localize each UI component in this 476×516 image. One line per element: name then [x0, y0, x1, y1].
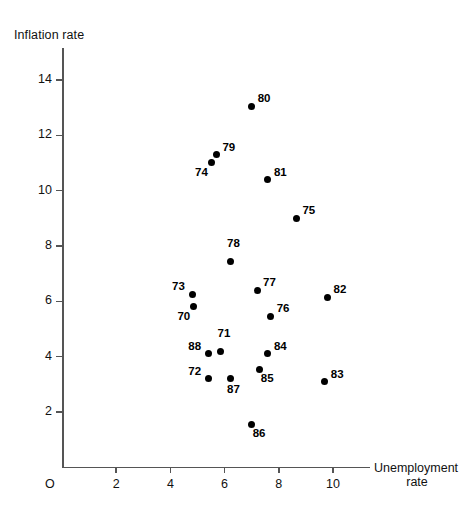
y-tick-mark [56, 79, 62, 81]
x-tick-label: 6 [212, 477, 238, 491]
data-point-label: 88 [188, 340, 201, 352]
scatter-plot: Inflation rate Unemployment rate O 24681… [0, 0, 476, 516]
y-tick-mark [56, 245, 62, 247]
data-point-label: 70 [177, 310, 190, 322]
data-point [248, 103, 255, 110]
y-tick-label: 6 [26, 293, 52, 307]
data-point-label: 75 [302, 204, 315, 216]
data-point [264, 350, 271, 357]
y-tick-label: 12 [26, 127, 52, 141]
data-point-label: 77 [263, 276, 276, 288]
data-point [190, 303, 197, 310]
x-tick-mark [170, 467, 172, 473]
origin-label: O [45, 477, 55, 491]
y-axis-line [62, 48, 64, 468]
data-point [254, 287, 261, 294]
data-point [217, 348, 224, 355]
data-point-label: 78 [227, 237, 240, 249]
data-point [293, 215, 300, 222]
data-point [267, 313, 274, 320]
y-tick-mark [56, 356, 62, 358]
y-tick-label: 4 [26, 349, 52, 363]
y-axis-title: Inflation rate [14, 28, 84, 42]
data-point-label: 76 [277, 302, 290, 314]
x-tick-label: 2 [103, 477, 129, 491]
x-axis-title-line-1: Unemployment [374, 461, 474, 475]
x-tick-mark [278, 467, 280, 473]
data-point-label: 81 [274, 166, 287, 178]
data-point [189, 291, 196, 298]
data-point-label: 86 [253, 427, 266, 439]
y-tick-mark [56, 411, 62, 413]
y-tick-label: 8 [26, 238, 52, 252]
x-tick-label: 8 [266, 477, 292, 491]
x-tick-label: 10 [320, 477, 346, 491]
x-tick-label: 4 [157, 477, 183, 491]
data-point [324, 294, 331, 301]
data-point [213, 151, 220, 158]
data-point-label: 80 [258, 92, 271, 104]
data-point-label: 87 [227, 383, 240, 395]
data-point-label: 71 [218, 327, 231, 339]
y-tick-label: 10 [26, 183, 52, 197]
y-tick-label: 2 [26, 404, 52, 418]
data-point [205, 375, 212, 382]
x-tick-mark [115, 467, 117, 473]
data-point [227, 258, 234, 265]
data-point [264, 176, 271, 183]
data-point [227, 375, 234, 382]
data-point-label: 73 [172, 280, 185, 292]
data-point-label: 74 [195, 166, 208, 178]
y-tick-mark [56, 135, 62, 137]
x-axis-line [62, 467, 370, 469]
data-point-label: 79 [222, 141, 235, 153]
data-point [205, 350, 212, 357]
data-point-label: 83 [331, 368, 344, 380]
x-axis-title-line-2: rate [374, 475, 474, 489]
data-point-label: 82 [334, 283, 347, 295]
data-point [321, 378, 328, 385]
data-point-label: 72 [188, 365, 201, 377]
y-tick-mark [56, 190, 62, 192]
y-tick-mark [56, 301, 62, 303]
y-tick-label: 14 [26, 72, 52, 86]
x-axis-title: Unemployment rate [374, 461, 474, 489]
data-point-label: 84 [274, 340, 287, 352]
x-tick-mark [224, 467, 226, 473]
data-point-label: 85 [261, 372, 274, 384]
data-point [208, 159, 215, 166]
x-tick-mark [332, 467, 334, 473]
